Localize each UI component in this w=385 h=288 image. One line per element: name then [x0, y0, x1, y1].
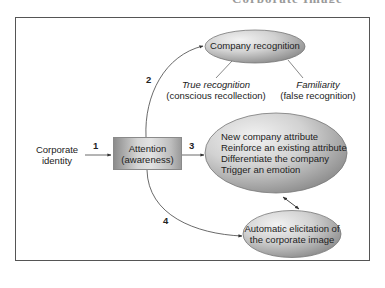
attribute-item: Differentiate the company	[221, 153, 347, 164]
bidirectional-arrow	[283, 197, 299, 209]
attribute-item: Reinforce an existing attribute	[221, 142, 347, 153]
corporate-identity-line2: identity	[32, 155, 82, 166]
branch-line-true-recognition	[216, 61, 232, 78]
true-recognition-subtitle: (conscious recollection)	[163, 90, 269, 101]
attention-line1: Attention	[129, 143, 167, 154]
arrow-2-number: 2	[146, 74, 151, 85]
arrow-4-number: 4	[163, 215, 168, 226]
arrow-3-number: 3	[189, 140, 194, 151]
corporate-identity-line1: Corporate	[32, 144, 82, 155]
attribute-item: New company attribute	[221, 131, 347, 142]
familiarity-label: Familiarity (false recognition)	[276, 79, 360, 101]
true-recognition-label: True recognition (conscious recollection…	[163, 79, 269, 101]
attention-box: Attention (awareness)	[113, 137, 182, 170]
elicitation-label: Automatic elicitation of the corporate i…	[243, 223, 341, 245]
true-recognition-title: True recognition	[163, 79, 269, 90]
attribute-item: Trigger an emotion	[221, 164, 347, 175]
elicitation-line2: the corporate image	[243, 234, 341, 245]
elicitation-line1: Automatic elicitation of	[243, 223, 341, 234]
arrow-1-number: 1	[93, 140, 98, 151]
corporate-identity-label: Corporate identity	[32, 144, 82, 166]
branch-line-familiarity	[288, 60, 303, 78]
attention-line2: (awareness)	[121, 154, 173, 165]
familiarity-title: Familiarity	[276, 79, 360, 90]
attributes-list: New company attribute Reinforce an exist…	[221, 131, 347, 175]
familiarity-subtitle: (false recognition)	[276, 90, 360, 101]
company-recognition-label: Company recognition	[205, 40, 305, 51]
